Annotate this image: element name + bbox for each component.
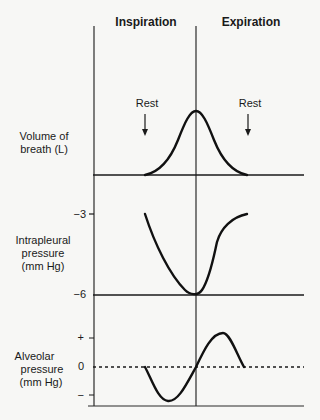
tick-label-minus6: −6 [62, 288, 86, 301]
intrapleural-title-line1: Intrapleural [15, 234, 70, 247]
tick-label-minus3: −3 [62, 208, 86, 221]
tick-label-zero: 0 [60, 360, 84, 373]
expiration-label: Expiration [222, 16, 281, 29]
volume-title-line2: breath (L) [20, 143, 69, 156]
alveolar-title-line3: (mm Hg) [15, 376, 64, 389]
intrapleural-title-line3: (mm Hg) [15, 260, 70, 273]
tick-label-minus: − [60, 389, 84, 402]
rest-arrow-left [142, 114, 148, 136]
rest-label-left: Rest [136, 97, 159, 110]
alveolar-title-line1: Alveolar [15, 350, 64, 363]
rest-arrow-right [245, 114, 251, 136]
volume-title-line1: Volume of [20, 130, 69, 143]
volume-axis-title: Volume of breath (L) [20, 130, 69, 156]
intrapleural-title-line2: pressure [15, 247, 70, 260]
inspiration-label: Inspiration [115, 16, 176, 29]
rest-label-right: Rest [239, 97, 262, 110]
intrapleural-axis-title: Intrapleural pressure (mm Hg) [15, 234, 70, 273]
respiration-diagram: Inspiration Expiration Rest Rest Volume … [0, 0, 320, 420]
alveolar-title-line2: pressure [15, 363, 64, 376]
alveolar-axis-title: Alveolar pressure (mm Hg) [15, 350, 64, 389]
tick-label-plus: + [60, 331, 84, 344]
